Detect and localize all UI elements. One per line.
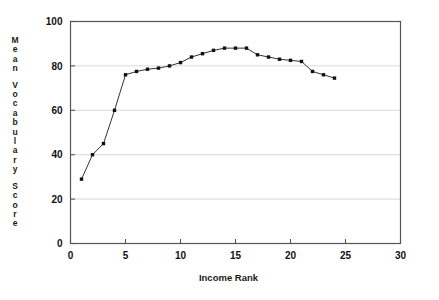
data-point-marker: [135, 70, 138, 73]
data-point-marker: [102, 142, 105, 145]
x-tick-label: 10: [175, 250, 187, 261]
data-point-marker: [179, 61, 182, 64]
plot-area: 051015202530 020406080100: [0, 0, 439, 300]
data-line-series: [82, 48, 335, 179]
data-point-marker: [91, 153, 94, 156]
y-axis-ticks: [71, 22, 76, 244]
data-point-marker: [157, 66, 160, 69]
data-point-marker: [190, 55, 193, 58]
data-point-marker: [300, 60, 303, 63]
x-tick-label: 5: [123, 250, 129, 261]
data-point-marker: [113, 109, 116, 112]
y-tick-label: 100: [46, 16, 63, 27]
data-point-marker: [201, 52, 204, 55]
x-tick-label: 0: [68, 250, 74, 261]
x-axis-ticks: [71, 239, 401, 244]
data-point-marker: [124, 73, 127, 76]
gridlines: [71, 66, 401, 199]
data-point-marker: [311, 70, 314, 73]
data-polyline: [82, 48, 335, 179]
data-point-marker: [289, 59, 292, 62]
y-tick-label: 20: [51, 194, 63, 205]
data-point-marker: [322, 73, 325, 76]
y-axis-tick-labels: 020406080100: [46, 16, 63, 249]
data-point-marker: [234, 46, 237, 49]
data-point-marker: [245, 46, 248, 49]
data-point-marker: [278, 58, 281, 61]
data-point-marker: [223, 46, 226, 49]
x-tick-label: 30: [395, 250, 407, 261]
data-point-marker: [168, 64, 171, 67]
axis-frame: [71, 22, 401, 244]
data-point-marker: [146, 68, 149, 71]
data-point-marker: [256, 53, 259, 56]
x-tick-label: 20: [285, 250, 297, 261]
axis-box: [71, 22, 401, 244]
x-tick-label: 25: [340, 250, 352, 261]
y-tick-label: 60: [51, 105, 63, 116]
x-axis-tick-labels: 051015202530: [68, 250, 407, 261]
data-point-marker: [333, 76, 336, 79]
y-tick-label: 0: [57, 238, 63, 249]
x-tick-label: 15: [230, 250, 242, 261]
data-point-marker: [80, 177, 83, 180]
data-point-marker: [267, 55, 270, 58]
chart-figure: MeanVocabularyScore Income Rank 05101520…: [0, 0, 439, 300]
data-point-markers: [80, 46, 336, 180]
y-tick-label: 40: [51, 149, 63, 160]
data-point-marker: [212, 49, 215, 52]
y-tick-label: 80: [51, 61, 63, 72]
